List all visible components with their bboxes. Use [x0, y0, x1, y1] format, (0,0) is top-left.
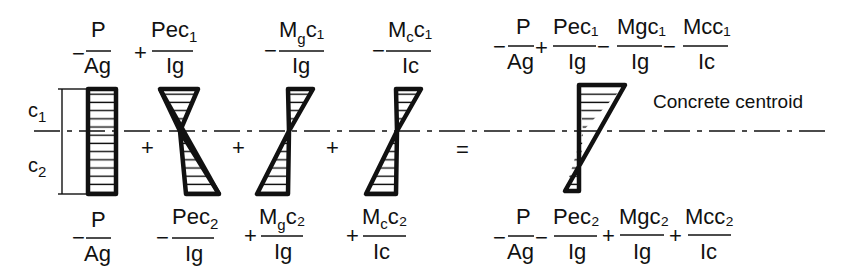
svg-text:Ig: Ig	[292, 53, 310, 78]
eccentricity-stress-block	[150, 85, 230, 198]
plus-operator: +	[326, 135, 339, 160]
svg-text:+: +	[669, 223, 682, 248]
svg-text:Ag: Ag	[84, 241, 111, 266]
centroid-label: Concrete centroid	[653, 91, 803, 112]
girder-moment-stress-block	[250, 85, 320, 198]
stress-diagram: c1 c2 + + + = Concrete centro	[0, 0, 854, 274]
svg-text:Ig: Ig	[631, 49, 649, 74]
svg-text:Ig: Ig	[568, 49, 586, 74]
top-formula-girder-moment: − Mgc₁ Ig	[264, 17, 324, 78]
top-formula-axial: − P Ag	[72, 17, 111, 78]
svg-text:P: P	[91, 17, 106, 42]
svg-text:Mgc₂: Mgc₂	[619, 204, 669, 229]
svg-text:+: +	[535, 35, 548, 60]
svg-text:Pec₂: Pec₂	[553, 204, 599, 229]
svg-text:−: −	[663, 34, 676, 59]
result-bottom-formula: − P Ag − Pec₂ Ig + Mgc₂ Ig + Mcc₂ Ic	[493, 204, 734, 264]
svg-text:Pec2: Pec2	[172, 204, 218, 232]
svg-text:+: +	[346, 223, 359, 248]
svg-text:Ig: Ig	[166, 53, 184, 78]
svg-text:−: −	[72, 41, 85, 66]
svg-text:Ig: Ig	[185, 241, 203, 266]
svg-text:−: −	[493, 34, 506, 59]
svg-text:−: −	[264, 38, 277, 63]
svg-text:Ag: Ag	[84, 53, 111, 78]
svg-text:Mcc₁: Mcc₁	[683, 14, 731, 39]
svg-text:Ic: Ic	[698, 49, 715, 74]
svg-text:Ic: Ic	[373, 239, 390, 264]
svg-text:Pec1: Pec1	[151, 17, 197, 45]
svg-text:+: +	[602, 223, 615, 248]
axial-stress-block	[88, 89, 116, 194]
plus-operator: +	[232, 135, 245, 160]
bottom-formula-composite-moment: + Mcc₂ Ic	[346, 204, 407, 264]
svg-text:Mcc₂: Mcc₂	[362, 204, 407, 232]
bottom-formula-girder-moment: + Mgc₂ Ig	[244, 204, 305, 264]
top-formula-composite-moment: − Mcc₁ Ic	[372, 17, 432, 78]
svg-text:Ig: Ig	[274, 239, 292, 264]
bottom-formula-eccentricity: − Pec2 Ig	[156, 204, 218, 266]
top-formula-eccentricity: + Pec1 Ig	[134, 17, 197, 78]
composite-moment-stress-block	[360, 85, 430, 198]
dimension-c1-label: c1	[28, 99, 46, 125]
dimension-c2-label: c2	[28, 154, 46, 180]
svg-text:Mcc₁: Mcc₁	[388, 17, 432, 45]
result-top-formula: − P Ag + Pec₁ Ig − Mgc₁ Ig − Mcc₁ Ic	[493, 14, 731, 74]
equals-operator: =	[456, 137, 469, 162]
svg-text:P: P	[516, 204, 531, 229]
svg-text:Mgc₁: Mgc₁	[617, 14, 666, 39]
svg-text:−: −	[156, 225, 169, 250]
bottom-formula-axial: − P Ag	[72, 207, 111, 266]
svg-text:−: −	[597, 34, 610, 59]
plus-operator: +	[141, 135, 154, 160]
svg-text:Ig: Ig	[568, 239, 586, 264]
svg-text:Ag: Ag	[507, 49, 534, 74]
svg-text:Mgc₁: Mgc₁	[279, 17, 324, 47]
svg-text:−: −	[72, 225, 85, 250]
svg-text:Ig: Ig	[633, 239, 651, 264]
svg-text:+: +	[244, 223, 257, 248]
svg-text:Mcc₂: Mcc₂	[685, 204, 734, 229]
svg-text:Pec₁: Pec₁	[553, 14, 598, 39]
svg-text:−: −	[372, 38, 385, 63]
resultant-stress-block	[560, 82, 630, 194]
svg-text:P: P	[91, 207, 106, 232]
svg-text:Ag: Ag	[507, 239, 534, 264]
svg-text:−: −	[493, 225, 506, 250]
svg-text:Ic: Ic	[700, 239, 717, 264]
svg-text:−: −	[535, 225, 548, 250]
svg-text:P: P	[516, 14, 531, 39]
dimension-marker	[58, 89, 88, 194]
svg-text:+: +	[134, 40, 147, 65]
svg-text:Mgc₂: Mgc₂	[259, 204, 305, 233]
svg-text:Ic: Ic	[402, 53, 419, 78]
